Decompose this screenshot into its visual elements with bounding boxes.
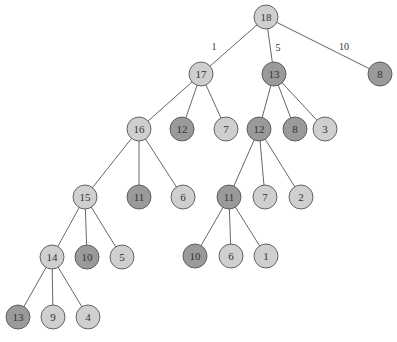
- tree-node: 2: [289, 185, 313, 209]
- nodes-layer: 18171381612712831511611721410510611394: [6, 5, 392, 329]
- node-label: 8: [377, 68, 383, 80]
- node-label: 13: [269, 68, 281, 80]
- tree-node: 16: [127, 117, 151, 141]
- node-label: 14: [47, 251, 59, 263]
- tree-node: 10: [75, 245, 99, 269]
- node-label: 2: [298, 191, 304, 203]
- tree-node: 11: [127, 185, 151, 209]
- tree-node: 8: [283, 117, 307, 141]
- tree-node: 1: [254, 244, 278, 268]
- node-label: 3: [322, 123, 328, 135]
- node-label: 7: [262, 191, 268, 203]
- edge-n18-n8a: [266, 17, 380, 74]
- node-label: 7: [223, 123, 229, 135]
- edge-label: 1: [212, 41, 217, 52]
- node-label: 13: [13, 311, 25, 323]
- node-label: 9: [50, 311, 56, 323]
- tree-node: 10: [183, 244, 207, 268]
- tree-node: 5: [110, 245, 134, 269]
- node-label: 8: [292, 123, 298, 135]
- edge-label: 10: [339, 41, 349, 52]
- tree-node: 15: [73, 185, 97, 209]
- tree-diagram: 1510 18171381612712831511611721410510611…: [0, 0, 397, 342]
- node-label: 12: [254, 123, 265, 135]
- tree-node: 13: [262, 62, 286, 86]
- node-label: 12: [177, 123, 188, 135]
- node-label: 11: [224, 191, 235, 203]
- node-label: 6: [180, 191, 186, 203]
- tree-node: 6: [171, 185, 195, 209]
- node-label: 10: [190, 250, 202, 262]
- tree-node: 13: [6, 305, 30, 329]
- tree-node: 6: [219, 244, 243, 268]
- node-label: 10: [82, 251, 94, 263]
- node-label: 15: [80, 191, 92, 203]
- tree-node: 17: [189, 62, 213, 86]
- node-label: 6: [228, 250, 234, 262]
- tree-node: 7: [214, 117, 238, 141]
- node-label: 17: [196, 68, 208, 80]
- tree-node: 18: [254, 5, 278, 29]
- tree-node: 12: [247, 117, 271, 141]
- tree-node: 3: [313, 117, 337, 141]
- node-label: 5: [119, 251, 125, 263]
- edge-n16-n15: [85, 129, 139, 197]
- node-label: 1: [263, 250, 269, 262]
- tree-node: 8: [368, 62, 392, 86]
- tree-node: 4: [76, 305, 100, 329]
- edge-label: 5: [276, 42, 281, 53]
- node-label: 4: [85, 311, 91, 323]
- node-label: 18: [261, 11, 273, 23]
- tree-node: 12: [170, 117, 194, 141]
- tree-node: 7: [253, 185, 277, 209]
- node-label: 16: [134, 123, 146, 135]
- tree-node: 14: [40, 245, 64, 269]
- node-label: 11: [134, 191, 145, 203]
- tree-node: 9: [41, 305, 65, 329]
- tree-svg: 1510 18171381612712831511611721410510611…: [0, 0, 397, 342]
- tree-node: 11: [217, 185, 241, 209]
